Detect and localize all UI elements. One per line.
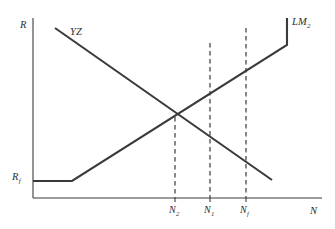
chart-canvas — [0, 0, 335, 229]
curve-lm2 — [33, 18, 287, 181]
x-tick-label-n1: N1 — [204, 205, 214, 215]
x-axis-label: N — [310, 206, 317, 217]
curve-yz — [55, 28, 272, 180]
economics-diagram: R N Rf YZ LM2 N2 N1 Nf — [0, 0, 335, 229]
curve-label-yz: YZ — [70, 27, 82, 38]
x-tick-label-n2: N2 — [169, 205, 179, 215]
curve-label-lm2: LM2 — [292, 17, 310, 28]
y-tick-label-rf: Rf — [12, 172, 21, 183]
y-axis-label: R — [20, 20, 27, 31]
x-tick-label-nf: Nf — [240, 205, 249, 215]
